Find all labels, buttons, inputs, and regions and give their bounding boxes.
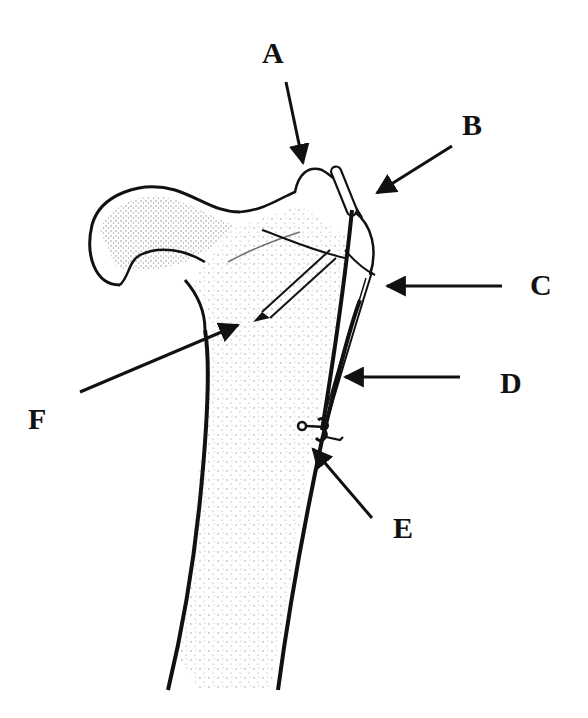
- label-b: B: [462, 110, 482, 140]
- femur-bone: [90, 168, 370, 690]
- label-e: E: [393, 513, 413, 543]
- label-f: F: [28, 404, 46, 434]
- arrow-a: [286, 82, 303, 163]
- arrow-e: [313, 449, 372, 518]
- diagram-canvas: [0, 0, 588, 718]
- label-c: C: [530, 270, 552, 300]
- label-d: D: [500, 368, 522, 398]
- femur-fixation-diagram: A B C D E F: [0, 0, 588, 718]
- arrow-b: [377, 146, 452, 193]
- label-a: A: [262, 38, 284, 68]
